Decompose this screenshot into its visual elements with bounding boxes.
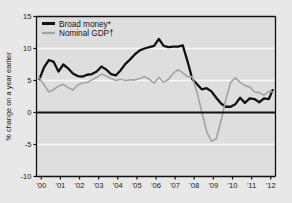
y-axis-tick-label: 10 — [23, 44, 31, 53]
x-axis-tick-label: '12 — [266, 181, 276, 190]
x-axis-tick-label: '00 — [36, 181, 46, 190]
x-axis-tick-label: '11 — [247, 181, 256, 190]
y-axis-title: % change on a year earlier — [4, 52, 13, 141]
x-axis-tick-label: '08 — [189, 181, 199, 190]
x-axis-tick-label: '05 — [132, 181, 142, 190]
chart-figure: 151050-5-10'00'01'02'03'04'05'06'07'08'0… — [0, 0, 292, 203]
y-axis-tick-label: -10 — [21, 172, 32, 181]
legend-label-1: Broad money* — [59, 20, 112, 29]
y-axis-tick-label: 15 — [23, 12, 31, 21]
x-axis-tick-label: '03 — [94, 181, 104, 190]
x-axis-tick-label: '06 — [151, 181, 161, 190]
x-axis-tick-label: '02 — [75, 181, 85, 190]
legend-label-2: Nominal GDP† — [59, 29, 114, 38]
x-axis-tick-label: '10 — [228, 181, 238, 190]
x-axis-tick-label: '09 — [208, 181, 218, 190]
x-axis-tick-label: '04 — [113, 181, 123, 190]
x-axis-tick-label: '01 — [55, 181, 65, 190]
plot-area-background — [37, 17, 276, 177]
y-axis-tick-label: 0 — [27, 108, 31, 117]
y-axis-tick-label: 5 — [27, 76, 31, 85]
x-axis-tick-label: '07 — [170, 181, 180, 190]
y-axis-tick-label: -5 — [25, 140, 32, 149]
line-chart: 151050-5-10'00'01'02'03'04'05'06'07'08'0… — [0, 0, 292, 203]
